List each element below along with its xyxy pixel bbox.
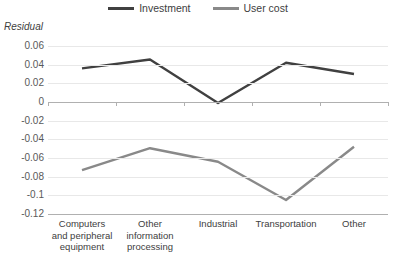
gridline	[48, 158, 388, 159]
y-tick-label: -0.02	[0, 116, 44, 126]
series-line-investment	[82, 60, 354, 103]
x-tick-mark	[252, 102, 253, 106]
gridline	[48, 46, 388, 47]
y-tick-label: -0.06	[0, 153, 44, 163]
chart-legend: Investment User cost	[0, 2, 396, 14]
gridline	[48, 65, 388, 66]
y-tick-label: 0.04	[0, 60, 44, 70]
legend-swatch-investment	[108, 7, 134, 10]
y-axis-tick-labels: 0.060.040.020-0.02-0.04-0.06-0.08-0.1-0.…	[0, 46, 44, 214]
y-tick-label: 0.02	[0, 78, 44, 88]
x-category-label: Other information processing	[116, 218, 184, 264]
zero-axis-line	[48, 102, 388, 103]
y-tick-label: -0.08	[0, 172, 44, 182]
gridline	[48, 121, 388, 122]
x-tick-mark	[184, 102, 185, 106]
gridline	[48, 177, 388, 178]
legend-label-investment: Investment	[139, 2, 190, 14]
x-category-label: Industrial	[184, 218, 252, 264]
legend-swatch-user-cost	[213, 7, 239, 10]
x-tick-mark	[388, 102, 389, 106]
legend-item-investment: Investment	[108, 2, 190, 14]
legend-label-user-cost: User cost	[244, 2, 288, 14]
gridline	[48, 195, 388, 196]
x-axis-category-labels: Computers and peripheral equipmentOther …	[48, 218, 388, 264]
gridline	[48, 139, 388, 140]
plot-area	[48, 46, 388, 214]
x-category-label: Transportation	[252, 218, 320, 264]
x-tick-mark	[116, 102, 117, 106]
series-line-user-cost	[82, 147, 354, 200]
y-tick-label: -0.12	[0, 209, 44, 219]
series-lines	[48, 46, 388, 214]
y-axis-title: Residual	[4, 21, 43, 33]
y-tick-label: 0.06	[0, 41, 44, 51]
residual-line-chart: Investment User cost Residual 0.060.040.…	[0, 0, 396, 265]
x-tick-mark	[48, 102, 49, 106]
y-tick-label: -0.04	[0, 134, 44, 144]
x-category-label: Other	[320, 218, 388, 264]
gridline	[48, 83, 388, 84]
legend-item-user-cost: User cost	[213, 2, 288, 14]
y-tick-label: 0	[0, 97, 44, 107]
y-tick-label: -0.1	[0, 190, 44, 200]
x-tick-mark	[320, 102, 321, 106]
x-category-label: Computers and peripheral equipment	[48, 218, 116, 264]
x-axis-line	[48, 214, 388, 215]
